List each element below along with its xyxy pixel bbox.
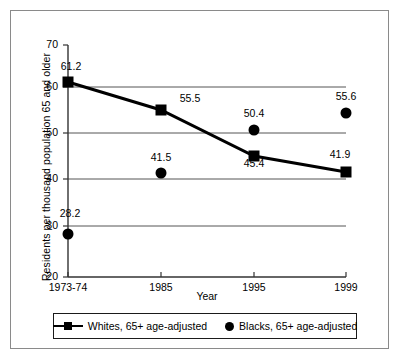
legend-label-blacks: Blacks, 65+ age-adjusted [239, 320, 357, 332]
data-label-whites-2: 55.5 [170, 92, 210, 104]
data-label-whites-4: 41.9 [320, 148, 360, 160]
data-point-blacks-3 [249, 125, 260, 136]
x-tick-label-4: 1999 [311, 281, 381, 293]
data-point-whites-2 [156, 105, 167, 116]
data-point-whites-1 [63, 77, 74, 88]
data-label-blacks-2: 41.5 [141, 151, 181, 163]
series-markers-blacks [63, 108, 352, 240]
data-point-whites-4 [341, 167, 352, 178]
data-point-blacks-4 [341, 108, 352, 119]
x-tick-label-2: 1985 [126, 281, 196, 293]
plot-area [0, 0, 400, 359]
data-label-whites-1: 61.2 [51, 60, 91, 72]
gridlines [68, 87, 346, 226]
x-axis-ticks [68, 272, 346, 277]
data-point-blacks-1 [63, 229, 74, 240]
data-point-blacks-2 [156, 168, 167, 179]
y-tick-label-60: 60 [32, 80, 58, 92]
legend-label-whites: Whites, 65+ age-adjusted [88, 320, 207, 332]
x-tick-label-1: 1973-74 [33, 281, 103, 293]
y-tick-label-70: 70 [32, 38, 58, 50]
data-label-blacks-3: 50.4 [234, 107, 274, 119]
legend-item-blacks: Blacks, 65+ age-adjusted [225, 320, 357, 332]
chart-figure: Residents per thousand population 65 and… [0, 0, 400, 359]
line-square-marker-icon [53, 321, 83, 332]
legend-item-whites: Whites, 65+ age-adjusted [53, 320, 207, 332]
data-label-blacks-1: 28.2 [50, 207, 90, 219]
y-tick-label-40: 40 [32, 172, 58, 184]
data-label-blacks-4: 55.6 [326, 90, 366, 102]
y-tick-label-50: 50 [32, 126, 58, 138]
chart-legend: Whites, 65+ age-adjusted Blacks, 65+ age… [53, 313, 357, 339]
y-tick-label-30: 30 [32, 219, 58, 231]
filled-circle-marker-icon [225, 322, 234, 331]
x-tick-label-3: 1995 [219, 281, 289, 293]
data-label-whites-3: 45.4 [234, 157, 274, 169]
